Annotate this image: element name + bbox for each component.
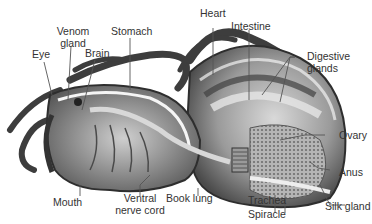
label-digestive-glands-line1: Digestive	[307, 50, 350, 62]
label-heart: Heart	[200, 7, 226, 19]
label-ventral-nerve-cord-line1: Ventral	[110, 192, 170, 204]
label-anus: Anus	[339, 166, 363, 178]
label-brain: Brain	[85, 47, 110, 59]
label-eye: Eye	[32, 48, 50, 60]
label-ovary: Ovary	[339, 129, 367, 141]
label-digestive-glands: Digestive glands	[307, 50, 350, 74]
label-venom-gland-line1: Venom	[48, 25, 98, 37]
label-venom-gland: Venom gland	[48, 25, 98, 49]
label-silk-gland: Silk gland	[325, 200, 371, 212]
label-ventral-nerve-cord: Ventral nerve cord	[110, 192, 170, 216]
label-stomach: Stomach	[111, 25, 152, 37]
label-mouth: Mouth	[53, 196, 82, 208]
label-trachea: Trachea	[248, 194, 286, 206]
label-spiracle: Spiracle	[248, 208, 286, 220]
spider-anatomy-diagram: Venom gland Stomach Eye Brain Heart Inte…	[0, 0, 372, 224]
label-digestive-glands-line2: glands	[307, 62, 350, 74]
label-ventral-nerve-cord-line2: nerve cord	[110, 204, 170, 216]
label-intestine: Intestine	[231, 20, 271, 32]
label-book-lung: Book lung	[166, 192, 213, 204]
